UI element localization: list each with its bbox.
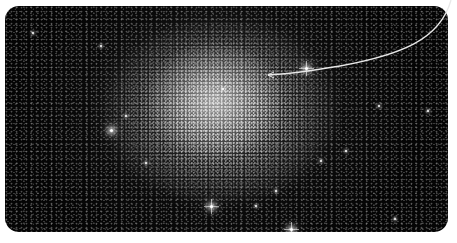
star xyxy=(210,205,213,208)
star xyxy=(427,110,429,112)
star xyxy=(32,32,34,34)
star xyxy=(305,67,308,70)
star xyxy=(378,105,380,107)
star xyxy=(255,205,257,207)
star xyxy=(275,190,277,192)
star xyxy=(110,129,113,132)
star xyxy=(125,115,127,117)
cluster-photo xyxy=(5,6,448,232)
star xyxy=(100,45,102,47)
star xyxy=(145,162,147,164)
star xyxy=(320,160,322,162)
star xyxy=(290,228,293,231)
star xyxy=(345,150,347,152)
figure xyxy=(0,0,457,243)
star xyxy=(394,218,396,220)
star xyxy=(222,88,224,90)
cluster-dense-stars xyxy=(100,16,340,206)
